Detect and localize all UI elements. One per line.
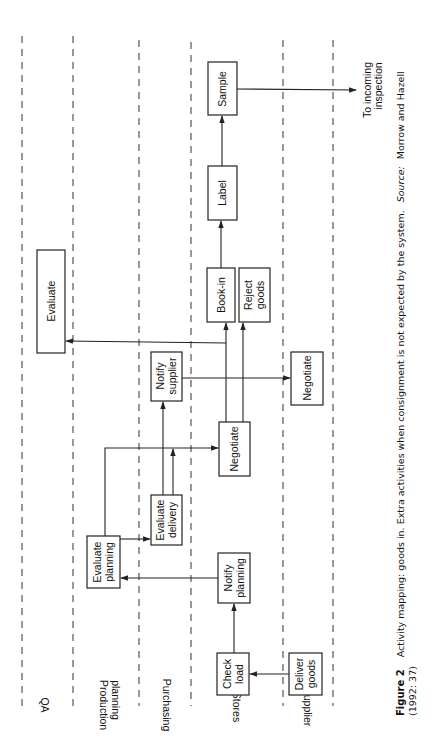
box-label-label: Label [216,180,228,206]
box-book-in-label: Book-in [215,277,227,313]
caption-figure-number: Figure 2 [395,669,406,716]
box-evaluate-delivery: Evaluate delivery [151,495,182,545]
arrow-sample-to-inspection [237,89,356,90]
box-notify-planning-line1: Notify [222,564,234,592]
lane-labels: QA Production planning Purchasing Stores… [39,679,314,732]
box-sample-label: Sample [216,71,228,107]
box-check-load: Check load [217,653,249,695]
lane-label-qa: QA [39,697,51,712]
box-notify-supplier: Notify supplier [151,352,182,401]
lane-label-production: Production [98,680,110,730]
exit-note: To incoming inspection [361,62,384,118]
arrow-to-qa-evaluate [66,341,226,343]
caption-source-label: Source: [395,166,406,202]
box-deliver-goods-line2: goods [305,660,317,689]
box-evaluate-planning: Evaluate planning [87,536,120,588]
box-negotiate-supplier-label: Negotiate [301,355,313,400]
box-reject-goods: Reject goods [239,268,270,322]
box-check-load-line1: Check [221,658,233,689]
box-book-in: Book-in [207,268,235,322]
box-negotiate-supplier: Negotiate [291,352,323,405]
activity-mapping-diagram: QA Production planning Purchasing Stores… [0,0,433,751]
exit-note-line2: inspection [372,62,384,109]
caption-line-1: Figure 2 Activity mapping: goods in. Ext… [390,71,407,716]
caption-text: Activity mapping: goods in. Extra activi… [395,210,406,657]
box-evaluate-delivery-line1: Evaluate [154,499,166,540]
box-negotiate-stores: Negotiate [219,422,250,476]
lane-label-stores: Stores [231,692,243,722]
box-notify-planning: Notify planning [218,553,250,603]
figure-caption: Figure 2 Activity mapping: goods in. Ext… [390,71,418,716]
box-reject-goods-line2: goods [254,281,266,310]
box-notify-supplier-line2: supplier [166,357,178,394]
box-evaluate-qa: Evaluate [37,250,65,353]
box-notify-supplier-line1: Notify [154,362,166,390]
box-check-load-line2: load [233,664,245,684]
box-reject-goods-line1: Reject [242,280,254,310]
box-deliver-goods: Deliver goods [289,653,322,695]
box-evaluate-planning-line1: Evaluate [91,541,103,582]
box-negotiate-stores-label: Negotiate [228,426,240,471]
box-sample: Sample [208,62,237,115]
box-evaluate-delivery-line2: delivery [166,501,178,538]
caption-source-text: Morrow and Hazell [395,71,406,159]
box-evaluate-planning-line2: planning [103,542,115,582]
lane-label-production-2: planning [110,680,122,720]
box-label: Label [208,166,237,220]
box-evaluate-qa-label: Evaluate [45,280,57,321]
box-notify-planning-line2: planning [234,558,246,598]
box-deliver-goods-line1: Deliver [293,657,305,690]
caption-source-year: (1992: 37) [407,666,418,716]
lane-label-purchasing: Purchasing [161,679,173,732]
